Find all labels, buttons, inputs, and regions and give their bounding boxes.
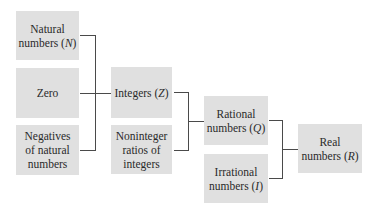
node-label: numbers (N) bbox=[19, 36, 77, 50]
node-label: of natural bbox=[25, 143, 71, 157]
connector-irrational bbox=[269, 178, 282, 179]
node-integers: Integers (Z) bbox=[111, 67, 172, 118]
node-zero: Zero bbox=[16, 68, 79, 118]
node-noninteger-ratios: Noninteger ratios of integers bbox=[111, 125, 172, 174]
connector-integers bbox=[174, 92, 188, 93]
node-label: Integers (Z) bbox=[115, 86, 169, 100]
node-natural-numbers: Natural numbers (N) bbox=[16, 11, 79, 60]
node-label: numbers (R) bbox=[301, 149, 358, 163]
node-label: numbers (I) bbox=[209, 179, 263, 193]
connector-natural bbox=[80, 35, 95, 36]
node-label: Negatives bbox=[25, 129, 71, 143]
connector-to-rational bbox=[188, 121, 204, 122]
node-label: Real bbox=[301, 135, 358, 149]
node-label: Irrational bbox=[209, 165, 263, 179]
node-negatives-of-natural-numbers: Negatives of natural numbers bbox=[16, 125, 79, 175]
node-real-numbers: Real numbers (R) bbox=[298, 124, 362, 173]
connector-noninteger bbox=[174, 150, 188, 151]
connector-negatives bbox=[80, 150, 95, 151]
node-label: numbers (Q) bbox=[207, 121, 265, 135]
node-label: ratios of bbox=[116, 143, 168, 157]
node-rational-numbers: Rational numbers (Q) bbox=[204, 96, 268, 145]
node-label: Zero bbox=[37, 86, 59, 100]
node-label: Noninteger bbox=[116, 129, 168, 143]
connector-bracket-left bbox=[95, 35, 96, 151]
node-label: integers bbox=[116, 157, 168, 171]
node-irrational-numbers: Irrational numbers (I) bbox=[204, 154, 268, 203]
connector-rational bbox=[269, 120, 282, 121]
node-label: Natural bbox=[19, 22, 77, 36]
connector-to-real bbox=[282, 149, 298, 150]
node-label: numbers bbox=[25, 157, 71, 171]
node-label: Rational bbox=[207, 107, 265, 121]
